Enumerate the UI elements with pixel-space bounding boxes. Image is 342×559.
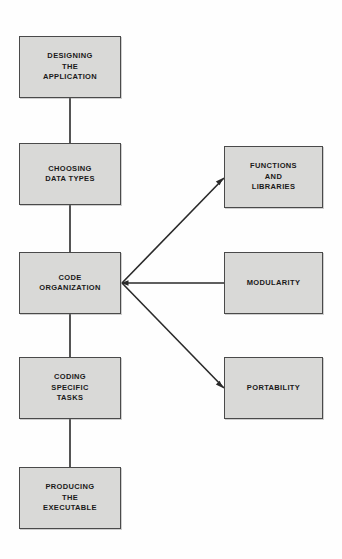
node-modularity: MODULARITY xyxy=(224,252,323,314)
node-code-organization: CODE ORGANIZATION xyxy=(19,252,121,314)
connector-code-organization-to-functions xyxy=(122,178,224,283)
node-label-choosing-data-types: CHOOSING DATA TYPES xyxy=(42,164,98,185)
node-designing-the-application: DESIGNING THE APPLICATION xyxy=(19,36,121,98)
node-label-code-organization: CODE ORGANIZATION xyxy=(36,273,104,294)
node-label-coding-specific-tasks: CODING SPECIFIC TASKS xyxy=(48,372,91,404)
node-portability: PORTABILITY xyxy=(224,357,323,419)
node-functions-and-libraries: FUNCTIONS AND LIBRARIES xyxy=(224,146,323,208)
arrowhead-into-portability xyxy=(216,381,223,388)
node-label-producing-the-executable: PRODUCING THE EXECUTABLE xyxy=(40,482,100,514)
node-label-portability: PORTABILITY xyxy=(244,383,303,394)
flowchart-diagram: DESIGNING THE APPLICATIONCHOOSING DATA T… xyxy=(0,0,342,559)
arrowhead-into-functions-and-libraries xyxy=(216,178,223,185)
connector-code-organization-to-portability xyxy=(122,283,224,388)
arrowhead-into-code-organization xyxy=(121,280,129,285)
node-label-designing-the-application: DESIGNING THE APPLICATION xyxy=(40,51,100,83)
node-choosing-data-types: CHOOSING DATA TYPES xyxy=(19,143,121,205)
node-producing-the-executable: PRODUCING THE EXECUTABLE xyxy=(19,467,121,529)
node-label-functions-and-libraries: FUNCTIONS AND LIBRARIES xyxy=(247,161,300,193)
node-coding-specific-tasks: CODING SPECIFIC TASKS xyxy=(19,357,121,419)
node-label-modularity: MODULARITY xyxy=(244,278,304,289)
